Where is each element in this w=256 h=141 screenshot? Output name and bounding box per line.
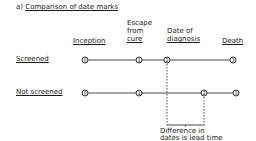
annotation-line2: dates is lead time — [160, 135, 223, 141]
screened-node-2: 2 — [164, 57, 170, 63]
screened-node-0: 0 — [82, 57, 88, 63]
screened-node-1: 1 — [136, 57, 142, 63]
svg-text:2: 2 — [202, 90, 205, 96]
svg-text:2: 2 — [165, 57, 168, 63]
not-screened-node-0: 0 — [82, 90, 88, 96]
screened-node-3: 3 — [230, 57, 236, 63]
timeline-diagram: 0 1 2 3 0 1 2 3 — [0, 0, 256, 141]
annotation-line2-prefix: dates is — [160, 134, 187, 141]
lead-time-emphasis: lead time — [189, 134, 222, 141]
svg-text:1: 1 — [137, 90, 140, 96]
not-screened-node-2: 2 — [201, 90, 207, 96]
svg-text:0: 0 — [83, 57, 86, 63]
not-screened-node-1: 1 — [136, 90, 142, 96]
svg-text:0: 0 — [83, 90, 86, 96]
svg-text:3: 3 — [231, 57, 234, 63]
svg-text:3: 3 — [234, 90, 237, 96]
svg-text:1: 1 — [137, 57, 140, 63]
not-screened-node-3: 3 — [233, 90, 239, 96]
